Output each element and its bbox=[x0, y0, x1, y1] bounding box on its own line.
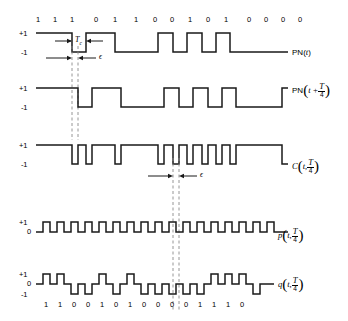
figure-root: +1 -1 1 1 1 0 1 1 0 0 1 0 1 0 0 0 0 Tc ϵ… bbox=[0, 0, 348, 321]
axis-label-c-t-minus-one: -1 bbox=[21, 160, 27, 169]
bit-label: 1 bbox=[125, 300, 135, 309]
signal-label-pn-t-main: PN bbox=[292, 48, 303, 57]
bit-label: 1 bbox=[97, 300, 107, 309]
bit-label: 1 bbox=[209, 300, 219, 309]
axis-label-q-t-zero: 0 bbox=[27, 279, 31, 288]
bit-label: 0 bbox=[139, 300, 149, 309]
waveform-q-t bbox=[36, 274, 274, 294]
bit-label: 1 bbox=[50, 15, 60, 24]
axis-label-pn-t-minus-one: -1 bbox=[21, 48, 27, 57]
signal-label-c-t: C(t,T4) bbox=[292, 158, 319, 175]
bit-label: 0 bbox=[83, 300, 93, 309]
fraction-tc-over-4: T4 bbox=[292, 227, 299, 244]
bit-label: 1 bbox=[131, 15, 141, 24]
signal-label-pn-t: PN(t) bbox=[292, 47, 311, 57]
signal-label-q-t: q(t,T4) bbox=[278, 276, 303, 293]
bit-label: 0 bbox=[261, 15, 271, 24]
bit-label: 0 bbox=[150, 15, 160, 24]
epsilon-dimension-arrows-top bbox=[46, 56, 96, 61]
bit-label: 1 bbox=[223, 300, 233, 309]
signal-label-pn-shifted-main: PN bbox=[292, 86, 303, 95]
bit-label: 0 bbox=[91, 15, 101, 24]
signal-label-pn-t-shifted: PN(t +T4) bbox=[292, 82, 330, 99]
axis-label-p-t-zero: 0 bbox=[27, 227, 31, 236]
bit-label: 1 bbox=[67, 15, 77, 24]
bit-label: 0 bbox=[69, 300, 79, 309]
signal-label-pn-shifted-arg: t + bbox=[308, 85, 318, 95]
tc-annotation: Tc bbox=[75, 35, 82, 46]
axis-label-pn-shifted-plus-one: +1 bbox=[19, 84, 27, 93]
bit-label: 1 bbox=[55, 300, 65, 309]
waveform-c-t bbox=[36, 145, 288, 164]
axis-label-c-t-plus-one: +1 bbox=[19, 141, 27, 150]
bit-label: 0 bbox=[244, 15, 254, 24]
fraction-denominator: 4 bbox=[318, 92, 325, 99]
bit-label: 0 bbox=[153, 300, 163, 309]
bit-label: 1 bbox=[110, 15, 120, 24]
fraction-tc-over-4: T4 bbox=[318, 82, 325, 99]
axis-label-pn-shifted-minus-one: -1 bbox=[21, 103, 27, 112]
alignment-guides-left bbox=[72, 46, 78, 140]
signal-label-p-t: p(t,T4) bbox=[278, 227, 303, 244]
fraction-tc-over-4: T4 bbox=[292, 276, 299, 293]
fraction-tc-over-4: T4 bbox=[307, 158, 314, 175]
bit-label: 0 bbox=[237, 300, 247, 309]
axis-label-pn-t-plus-one: +1 bbox=[19, 29, 27, 38]
bit-label: 0 bbox=[295, 15, 305, 24]
bit-label: 1 bbox=[221, 15, 231, 24]
bit-label: 1 bbox=[33, 15, 43, 24]
bit-label: 1 bbox=[185, 15, 195, 24]
bit-label: 0 bbox=[167, 15, 177, 24]
bit-label: 0 bbox=[203, 15, 213, 24]
bit-label: 0 bbox=[167, 300, 177, 309]
fraction-denominator: 4 bbox=[292, 286, 299, 293]
bit-label: 1 bbox=[195, 300, 205, 309]
bit-label: 0 bbox=[181, 300, 191, 309]
tc-subscript: c bbox=[79, 40, 81, 46]
waveform-pn-t-shifted bbox=[36, 88, 288, 107]
axis-label-q-t-plus-one: +1 bbox=[19, 270, 27, 279]
waveform-p-t bbox=[36, 222, 288, 232]
fraction-denominator: 4 bbox=[307, 168, 314, 175]
epsilon-annotation-top: ϵ bbox=[99, 52, 102, 61]
epsilon-annotation-middle: ϵ bbox=[200, 170, 203, 179]
axis-label-q-t-minus-one: -1 bbox=[21, 290, 27, 299]
bit-label: 0 bbox=[111, 300, 121, 309]
fraction-denominator: 4 bbox=[292, 237, 299, 244]
epsilon-dimension-arrows-middle bbox=[148, 174, 197, 179]
bit-label: 1 bbox=[41, 300, 51, 309]
axis-label-p-t-plus-one: +1 bbox=[19, 218, 27, 227]
bit-label: 0 bbox=[278, 15, 288, 24]
waveform-pn-t bbox=[36, 33, 288, 52]
